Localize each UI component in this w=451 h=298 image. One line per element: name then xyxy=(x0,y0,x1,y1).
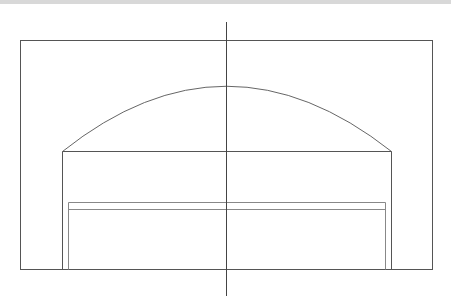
diagram-canvas xyxy=(0,0,451,298)
elevation-drawing xyxy=(0,0,451,298)
